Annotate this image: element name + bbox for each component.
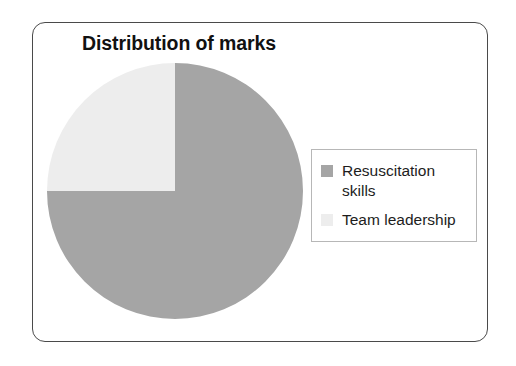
chart-title: Distribution of marks (82, 32, 276, 55)
legend-item-label: Resuscitation skills (342, 161, 466, 201)
legend-item-label: Team leadership (342, 210, 456, 230)
chart-legend: Resuscitation skills Team leadership (311, 149, 477, 242)
chart-frame: Distribution of marks Resuscitation skil… (32, 22, 488, 342)
legend-swatch-icon (321, 165, 333, 177)
pie-slice-team-leadership (47, 63, 175, 191)
legend-item[interactable]: Resuscitation skills (321, 161, 466, 201)
pie-chart (47, 63, 303, 319)
legend-item[interactable]: Team leadership (321, 210, 466, 230)
legend-swatch-icon (321, 214, 333, 226)
pie-plot-area (47, 63, 303, 319)
